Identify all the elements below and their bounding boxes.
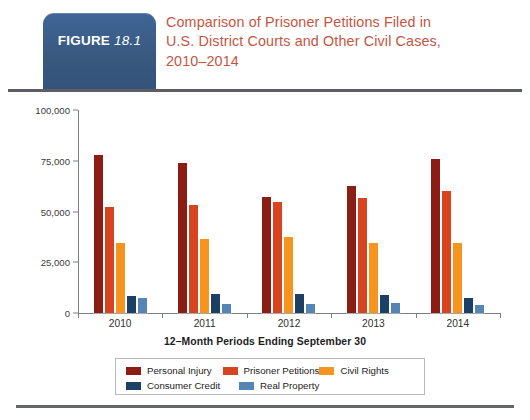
legend-item: Real Property — [239, 380, 352, 391]
bar — [189, 205, 198, 313]
x-axis-title: 12–Month Periods Ending September 30 — [0, 336, 530, 347]
bar-group — [78, 110, 162, 313]
figure-badge-word: FIGURE — [58, 33, 110, 48]
legend-label: Prisoner Petitions — [244, 365, 320, 376]
figure-title-line-3: 2010–2014 — [166, 52, 516, 71]
x-tick-label: 2011 — [194, 318, 216, 329]
bar — [284, 237, 293, 313]
bar-group — [416, 110, 500, 313]
figure-badge-text: FIGURE18.1 — [43, 33, 156, 48]
bar — [211, 294, 220, 313]
legend-row-1: Personal InjuryPrisoner PetitionsCivil R… — [126, 364, 416, 377]
legend-label: Real Property — [260, 380, 319, 391]
figure-title-line-1: Comparison of Prisoner Petitions Filed i… — [166, 13, 516, 32]
x-tick-label: 2012 — [278, 318, 301, 329]
bar-group — [331, 110, 415, 313]
bar — [464, 298, 473, 313]
bar — [200, 239, 209, 313]
legend-row-2: Consumer CreditReal Property — [126, 379, 416, 392]
legend-swatch-icon — [126, 382, 141, 390]
bar-groups — [78, 110, 500, 313]
x-axis-labels: 20102011201220132014 — [78, 318, 500, 334]
figure-title: Comparison of Prisoner Petitions Filed i… — [166, 13, 516, 71]
legend-swatch-icon — [223, 367, 238, 375]
x-tick-label: 2013 — [362, 318, 385, 329]
bar — [127, 296, 136, 313]
bar — [105, 207, 114, 313]
bar — [295, 294, 304, 313]
y-tick-label: 100,000 — [35, 105, 78, 116]
x-tick-mark — [500, 313, 501, 318]
legend-swatch-icon — [126, 367, 141, 375]
figure-header: FIGURE18.1 Comparison of Prisoner Petiti… — [0, 0, 530, 96]
bar — [358, 198, 367, 313]
chart-legend: Personal InjuryPrisoner PetitionsCivil R… — [115, 358, 425, 395]
bar — [138, 298, 147, 313]
bar — [431, 159, 440, 313]
figure-number-badge: FIGURE18.1 — [43, 13, 156, 89]
x-axis-line — [78, 313, 500, 314]
bar — [306, 304, 315, 313]
header-divider-rule — [8, 89, 522, 92]
legend-swatch-icon — [319, 367, 334, 375]
bar — [453, 243, 462, 313]
bar — [222, 304, 231, 313]
legend-item: Civil Rights — [319, 365, 416, 376]
legend-swatch-icon — [239, 382, 254, 390]
footer-divider-rule — [16, 405, 514, 408]
legend-item: Personal Injury — [126, 365, 223, 376]
x-tick-label: 2014 — [446, 318, 469, 329]
legend-label: Consumer Credit — [147, 380, 220, 391]
bar — [347, 186, 356, 313]
legend-label: Civil Rights — [340, 365, 388, 376]
legend-label: Personal Injury — [147, 365, 212, 376]
figure-badge-number: 18.1 — [114, 33, 141, 48]
figure-title-line-2: U.S. District Courts and Other Civil Cas… — [166, 32, 516, 51]
bar-chart: 025,00050,00075,000100,000 2010201120122… — [0, 96, 530, 356]
bar — [380, 295, 389, 313]
x-tick-label: 2010 — [109, 318, 132, 329]
legend-item: Consumer Credit — [126, 380, 239, 391]
bar — [262, 197, 271, 313]
bar-group — [162, 110, 246, 313]
legend-item: Prisoner Petitions — [223, 365, 320, 376]
bar — [369, 243, 378, 313]
bar — [273, 202, 282, 313]
bar — [116, 243, 125, 313]
bar-group — [247, 110, 331, 313]
bar — [442, 191, 451, 313]
bar — [94, 155, 103, 313]
bar — [178, 163, 187, 313]
plot-area: 025,00050,00075,000100,000 — [78, 110, 500, 313]
bar — [391, 303, 400, 313]
bar — [475, 305, 484, 313]
